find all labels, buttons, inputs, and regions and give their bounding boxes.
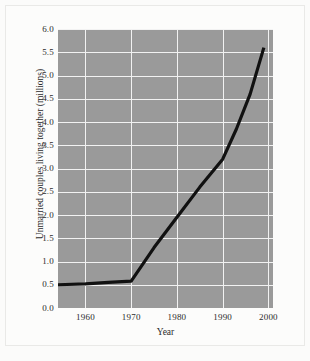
y-axis-tick-label: 4.5 bbox=[4, 94, 54, 103]
chart-figure: 0.00.51.01.52.02.53.03.54.04.55.05.56.0 … bbox=[0, 0, 310, 361]
x-axis-tick-label: 1960 bbox=[65, 312, 105, 322]
y-axis-tick-label: 5.0 bbox=[4, 71, 54, 80]
y-axis-tick-label: 2.0 bbox=[4, 211, 54, 220]
y-axis-tick-label: 6.0 bbox=[4, 25, 54, 34]
y-axis-ticks: 0.00.51.01.52.02.53.03.54.04.55.05.56.0 bbox=[0, 29, 54, 308]
x-axis-tick-label: 1990 bbox=[203, 312, 243, 322]
y-axis-tick-label: 3.0 bbox=[4, 164, 54, 173]
y-axis-tick-label: 4.0 bbox=[4, 118, 54, 127]
y-axis-tick-label: 3.5 bbox=[4, 141, 54, 150]
x-axis-tick-label: 1980 bbox=[157, 312, 197, 322]
x-axis-tick-label: 1970 bbox=[111, 312, 151, 322]
x-axis-ticks: 19601970198019902000 bbox=[58, 312, 273, 328]
y-axis-tick-label: 0.5 bbox=[4, 280, 54, 289]
y-axis-tick-label: 2.5 bbox=[4, 187, 54, 196]
y-axis-tick-label: 1.5 bbox=[4, 234, 54, 243]
plot-area bbox=[58, 29, 273, 308]
y-axis-tick-label: 1.0 bbox=[4, 257, 54, 266]
x-axis-tick-label: 2000 bbox=[248, 312, 288, 322]
x-axis-title: Year bbox=[58, 327, 273, 337]
data-line-series bbox=[58, 29, 273, 308]
y-axis-tick-label: 5.5 bbox=[4, 48, 54, 57]
y-axis-tick-label: 0.0 bbox=[4, 304, 54, 313]
y-axis-title: Unmarried couples living together (milli… bbox=[35, 14, 45, 294]
